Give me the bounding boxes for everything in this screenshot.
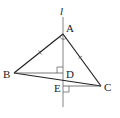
right-angle-mark-D xyxy=(57,67,63,73)
geometry-figure: l A B C D E xyxy=(0,0,120,118)
label-l: l xyxy=(60,5,63,17)
segment-AB xyxy=(14,34,63,73)
label-C: C xyxy=(104,81,111,93)
label-A: A xyxy=(66,22,74,34)
label-D: D xyxy=(66,68,74,80)
right-angle-mark-E xyxy=(63,86,69,92)
label-E: E xyxy=(54,82,61,94)
label-B: B xyxy=(3,68,10,80)
